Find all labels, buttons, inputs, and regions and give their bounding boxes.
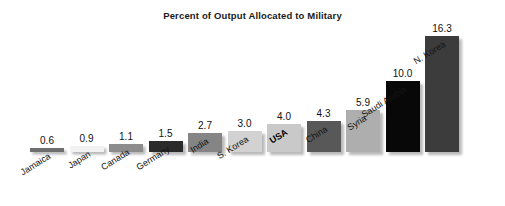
bar-group: 4.0USA (267, 124, 301, 152)
bar-group: 0.6Jamaica (30, 148, 64, 152)
bar-group: 0.9Japan (70, 146, 104, 152)
bar-group: 2.7India (188, 133, 222, 152)
bar-group: 4.3China (307, 121, 341, 152)
plot-area: 0.6Jamaica0.9Japan1.1Canada1.5Germany2.7… (0, 0, 505, 206)
bar-value-label: 10.0 (374, 68, 432, 79)
bar-group: 1.5Germany (149, 141, 183, 152)
bar-group: 1.1Canada (109, 144, 143, 152)
bar-chart-figure: Percent of Output Allocated to Military … (0, 0, 505, 206)
bar-group: 10.0Saudi Arabia (386, 81, 420, 152)
bar-group: 3.0S. Korea (228, 131, 262, 152)
bar-value-label: 16.3 (413, 23, 471, 34)
bar-group: 16.3N. Korea (425, 36, 459, 152)
category-label-jamaica: Jamaica (19, 151, 53, 177)
bar-value-label: 4.3 (295, 108, 353, 119)
